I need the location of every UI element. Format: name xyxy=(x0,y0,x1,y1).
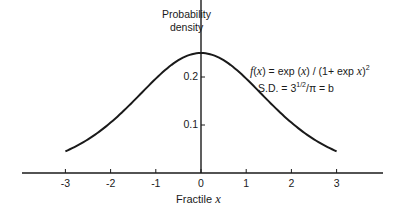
x-tick-label: 1 xyxy=(243,178,249,189)
x-axis-label: Fractile x xyxy=(176,192,221,207)
y-tick-label: 0.2 xyxy=(168,71,198,82)
y-axis-label-line1: Probability xyxy=(162,8,211,21)
x-tick-label: 2 xyxy=(288,178,294,189)
x-tick-label: -1 xyxy=(151,178,160,189)
formula-line-1: f(x) = exp (x) / (1+ exp x)2 xyxy=(250,61,370,78)
x-tick-label: -3 xyxy=(61,178,70,189)
y-axis-label: Probability density xyxy=(162,8,211,34)
x-tick-label: -2 xyxy=(106,178,115,189)
formula-line-2: S.D. = 31/2/π = b xyxy=(250,78,370,95)
y-tick-label: 0.1 xyxy=(168,119,198,130)
x-tick-label: 3 xyxy=(334,178,340,189)
x-tick-label: 0 xyxy=(198,178,204,189)
formula-annotation: f(x) = exp (x) / (1+ exp x)2 S.D. = 31/2… xyxy=(250,61,370,95)
y-axis-label-line2: density xyxy=(162,21,211,34)
